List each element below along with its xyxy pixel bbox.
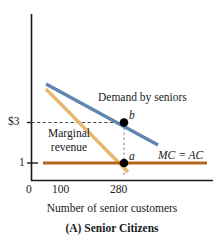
point-a-marker bbox=[120, 159, 129, 168]
point-a-label: a bbox=[129, 151, 135, 163]
x-tick-label-100: 100 bbox=[52, 184, 69, 196]
point-b-marker bbox=[120, 118, 129, 127]
panel-title: (A) Senior Citizens bbox=[0, 223, 224, 235]
mc-ac-label: MC = AC bbox=[158, 150, 203, 162]
demand-curve-label: Demand by seniors bbox=[98, 92, 187, 104]
marginal-revenue-label: Marginal revenue bbox=[38, 127, 100, 154]
x-tick-label-280: 280 bbox=[110, 184, 127, 196]
point-b-label: b bbox=[129, 110, 135, 122]
x-tick-label-0: 0 bbox=[26, 184, 32, 196]
x-axis-title: Number of senior customers bbox=[0, 203, 224, 215]
y-tick-label-1: 1 bbox=[19, 157, 25, 169]
senior-citizens-figure: $3 1 0 100 280 Demand by seniors Margina… bbox=[0, 0, 224, 242]
y-tick-label-3: $3 bbox=[8, 116, 20, 128]
marginal-revenue-label-line1: Marginal bbox=[38, 127, 100, 141]
marginal-revenue-label-line2: revenue bbox=[38, 141, 100, 155]
